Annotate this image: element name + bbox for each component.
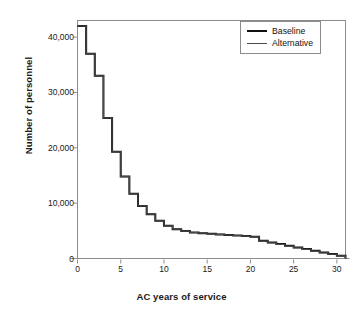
x-tick-label: 0: [58, 264, 98, 274]
data-series-group: [78, 26, 346, 258]
legend-entry-baseline: Baseline: [247, 25, 313, 37]
legend-label-alternative: Alternative: [272, 37, 313, 49]
x-tick-label: 5: [101, 264, 141, 274]
x-tick-label: 20: [230, 264, 270, 274]
legend-swatch-alternative: [247, 43, 267, 44]
x-tick-label: 30: [317, 264, 357, 274]
legend-label-baseline: Baseline: [272, 25, 305, 37]
y-axis-title: Number of personnel: [23, 26, 34, 186]
y-tick-label: 10,000: [14, 198, 74, 208]
x-tick-label: 10: [144, 264, 184, 274]
y-tick-label: 0: [14, 254, 74, 264]
chart-legend: Baseline Alternative: [240, 21, 321, 54]
legend-swatch-baseline: [247, 30, 267, 32]
x-axis-title: AC years of service: [0, 291, 363, 302]
legend-entry-alternative: Alternative: [247, 37, 313, 49]
x-tick-label: 25: [274, 264, 314, 274]
x-tick-label: 15: [187, 264, 227, 274]
chart-figure: 010,00020,00030,00040,000 051015202530 N…: [0, 0, 363, 318]
